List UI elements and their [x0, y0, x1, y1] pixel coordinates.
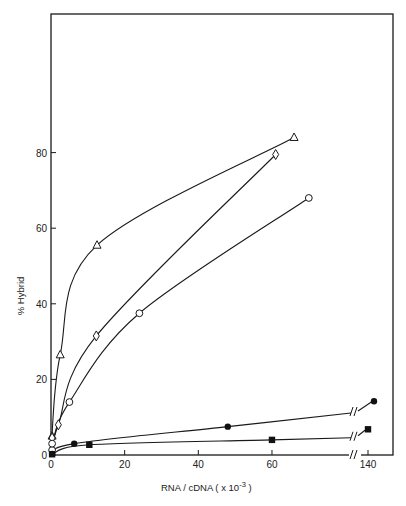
triangle-open-marker — [56, 350, 64, 358]
square-filled-marker — [49, 451, 55, 457]
circle-open-marker — [305, 195, 312, 202]
circle-filled-marker — [225, 423, 231, 429]
circle-open-marker — [136, 310, 143, 317]
data-markers — [48, 133, 377, 457]
square-filled-marker — [86, 442, 92, 448]
y-tick-label: 80 — [36, 148, 48, 159]
x-tick-label: 60 — [266, 459, 278, 470]
y-tick-label: 40 — [36, 299, 48, 310]
open-diamond-curve — [51, 154, 276, 455]
break-slash — [350, 407, 353, 416]
axis-break-marks — [350, 407, 357, 459]
circle-open-marker — [49, 440, 56, 447]
data-curves — [50, 137, 371, 455]
x-tick-label: 140 — [360, 459, 377, 470]
square-filled-marker — [365, 426, 371, 432]
x-tick-label: 40 — [193, 459, 205, 470]
diamond-open-marker — [273, 149, 279, 159]
y-tick-label: 20 — [36, 374, 48, 385]
open-triangle-curve — [51, 137, 294, 455]
x-tick-label: 0 — [48, 459, 54, 470]
x-axis-title-exponent: -3 — [239, 480, 246, 489]
plot-frame — [51, 14, 393, 455]
x-axis-title: RNA / cDNA ( x 10-3 ) — [161, 480, 252, 493]
circle-filled-marker — [71, 440, 77, 446]
square-filled-marker — [269, 437, 275, 443]
y-tick-label: 60 — [36, 223, 48, 234]
x-tick-label: 20 — [119, 459, 131, 470]
circle-filled-marker — [371, 398, 377, 404]
filled-circle-curve-tail — [358, 402, 371, 411]
break-slash — [354, 407, 357, 416]
open-circle-curve — [50, 198, 308, 455]
break-slash — [350, 432, 353, 441]
y-tick-label: 0 — [41, 450, 47, 461]
break-slash — [354, 432, 357, 441]
triangle-open-marker — [290, 133, 298, 141]
x-axis-title-main: RNA / cDNA ( x 10 — [161, 482, 239, 493]
axis-ticks: 0204060800204060140 — [36, 148, 377, 470]
filled-circle-curve — [51, 413, 351, 455]
x-axis-title-close: ) — [246, 482, 252, 493]
triangle-open-marker — [93, 241, 101, 249]
y-axis-title: % Hybrid — [15, 277, 26, 316]
hybridization-chart: 0204060800204060140 % Hybrid RNA / cDNA … — [0, 0, 406, 506]
filled-square-curve-tail — [358, 430, 365, 435]
circle-open-marker — [66, 399, 73, 406]
